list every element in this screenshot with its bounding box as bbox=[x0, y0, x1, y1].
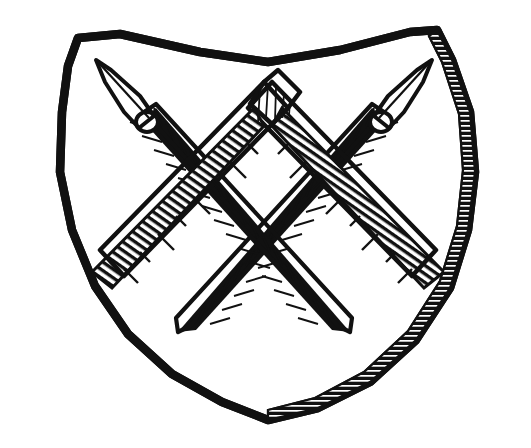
shield-emblem-illustration bbox=[0, 0, 531, 448]
emblem-canvas: Crossed Drafting Tools Shield Emblem Bla… bbox=[0, 0, 531, 448]
